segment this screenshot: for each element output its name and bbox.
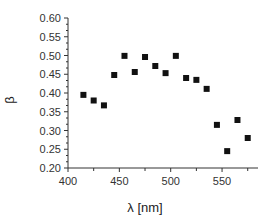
data-point <box>173 53 179 59</box>
data-point <box>101 102 107 108</box>
x-axis: 400450500550 <box>59 168 258 187</box>
x-axis-title: λ [nm] <box>127 200 162 215</box>
data-point <box>245 135 251 141</box>
scatter-chart: 0.200.250.300.350.400.450.500.550.60 400… <box>0 0 279 220</box>
x-tick-label: 500 <box>162 175 180 187</box>
y-axis: 0.200.250.300.350.400.450.500.550.60 <box>40 12 68 174</box>
data-point <box>224 148 230 154</box>
data-point <box>132 69 138 75</box>
y-tick-label: 0.60 <box>40 12 61 24</box>
data-point <box>234 117 240 123</box>
data-point <box>193 77 199 83</box>
data-point <box>214 122 220 128</box>
data-point <box>111 72 117 78</box>
y-axis-title: β <box>2 96 17 103</box>
data-point <box>80 92 86 98</box>
y-tick-label: 0.30 <box>40 125 61 137</box>
y-tick-label: 0.20 <box>40 162 61 174</box>
x-tick-label: 400 <box>59 175 77 187</box>
y-tick-label: 0.55 <box>40 31 61 43</box>
data-point <box>121 53 127 59</box>
data-point <box>142 54 148 60</box>
data-point <box>152 63 158 69</box>
data-point <box>163 70 169 76</box>
y-tick-label: 0.35 <box>40 106 61 118</box>
y-tick-label: 0.45 <box>40 68 61 80</box>
x-tick-label: 450 <box>110 175 128 187</box>
y-tick-label: 0.40 <box>40 87 61 99</box>
data-point <box>183 75 189 81</box>
data-points <box>80 53 250 154</box>
data-point <box>91 98 97 104</box>
y-tick-label: 0.25 <box>40 143 61 155</box>
x-tick-label: 550 <box>213 175 231 187</box>
data-point <box>204 86 210 92</box>
y-tick-label: 0.50 <box>40 50 61 62</box>
